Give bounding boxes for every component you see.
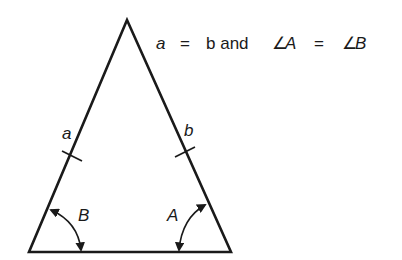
angle-label-a: A [166,206,178,225]
triangle-diagram: a b B A a = b and ∠ A = ∠ B [0,0,402,260]
caption-a: a [156,34,165,53]
caption-angle-a: A [284,34,296,53]
caption-angle-b: B [355,34,366,53]
diagram-canvas: a b B A a = b and ∠ A = ∠ B [0,0,402,260]
side-label-b: b [184,121,193,140]
caption-mid: b and [206,34,249,53]
angle-b-arc [51,210,81,250]
caption-eq1: = [180,34,190,53]
caption: a = b and ∠ A = ∠ B [156,34,366,53]
angle-label-b: B [78,206,89,225]
side-label-a: a [62,124,71,143]
angle-a-arc [179,205,205,250]
caption-eq2: = [314,34,324,53]
triangle-outline [29,20,231,252]
